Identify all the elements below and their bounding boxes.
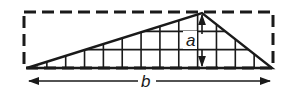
triangle-area-diagram: a b <box>0 0 291 94</box>
base-label-b: b <box>141 72 150 91</box>
height-label-a: a <box>186 31 195 50</box>
